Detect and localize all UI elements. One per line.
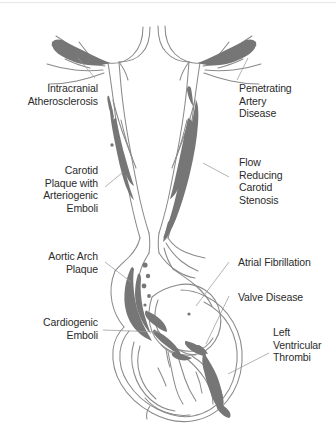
apex-notch xyxy=(147,406,150,419)
label-flow-reducing-carotid-stenosis: Flow Reducing Carotid Stenosis xyxy=(239,156,333,206)
right-carotid-root xyxy=(158,233,159,253)
label-left-ventricular-thrombi: Left Ventricular Thrombi xyxy=(273,326,336,364)
leader-carotid-plaque xyxy=(105,172,123,187)
aortic-embolus-4 xyxy=(147,294,151,298)
label-valve-disease: Valve Disease xyxy=(238,291,336,304)
aortic-embolus-2 xyxy=(146,274,150,278)
aortic-embolus-1 xyxy=(142,262,147,267)
leader-aortic-arch-plaque xyxy=(105,262,131,282)
label-penetrating-artery-disease: Penetrating Artery Disease xyxy=(239,82,333,120)
left-carotid-root xyxy=(149,233,150,253)
left-carotid-outer-wall xyxy=(108,63,140,238)
leader-flow-reducing-carotid-stenosis xyxy=(203,163,229,177)
papillary-muscle-2 xyxy=(196,372,202,393)
leader-left-ventricular-thrombi xyxy=(228,353,269,374)
arteriogenic-embolus-3 xyxy=(119,151,122,154)
valve-leaflet-vegetation xyxy=(172,352,192,360)
label-cardiogenic-emboli: Cardiogenic Emboli xyxy=(6,316,98,341)
anatomy-illustration xyxy=(0,0,336,434)
arteriogenic-embolus-2 xyxy=(110,143,113,146)
right-carotid-stenosis-upper-tip xyxy=(187,86,193,106)
aorta-descending-outer xyxy=(111,271,124,327)
atrial-fibrillation-marker xyxy=(187,312,190,315)
papillary-muscle-1 xyxy=(158,368,166,386)
anterior-cerebral-left-inner xyxy=(119,27,150,62)
anterior-cerebral-right-outer xyxy=(165,26,200,63)
right-carotid-stenosis-lower-tail xyxy=(163,221,172,242)
stroke-sources-figure: Intracranial Atherosclerosis Carotid Pla… xyxy=(0,0,336,434)
anterior-cerebral-right-inner xyxy=(158,26,189,62)
label-atrial-fibrillation: Atrial Fibrillation xyxy=(238,256,336,269)
right-ventricle-inner-wall xyxy=(138,346,156,399)
leader-atrial-fibrillation xyxy=(196,262,229,306)
cardiogenic-embolus-blob-2 xyxy=(153,330,181,355)
label-intracranial-atherosclerosis: Intracranial Atherosclerosis xyxy=(6,82,98,107)
aortic-embolus-5 xyxy=(143,303,146,306)
label-aortic-arch-plaque: Aortic Arch Plaque xyxy=(6,250,98,275)
left-carotid-inner-wall xyxy=(119,62,149,233)
label-carotid-plaque-arteriogenic-emboli: Carotid Plaque with Arteriogenic Emboli xyxy=(6,164,98,214)
right-subclavian-flare-1 xyxy=(168,238,205,258)
aortic-embolus-3 xyxy=(142,284,147,289)
anterior-cerebral-left-outer xyxy=(108,27,143,63)
left-subclavian-curve xyxy=(115,238,140,271)
aorta-arch-descending-right xyxy=(173,269,212,306)
scan-artifact-line xyxy=(0,2,336,3)
arteriogenic-embolus-1 xyxy=(115,135,120,140)
